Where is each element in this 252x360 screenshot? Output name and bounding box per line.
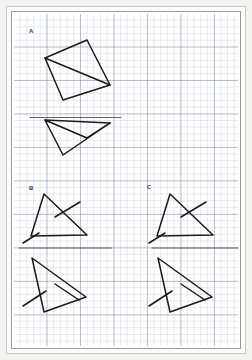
exercise-group-b [19, 194, 112, 312]
exercise-label-a: A [29, 28, 33, 34]
exercise-label-b: B [29, 185, 33, 191]
figure-a-reflection [45, 120, 110, 155]
segment-c-reflection-0 [181, 284, 205, 300]
exercise-group-a [30, 40, 121, 155]
polygon-a-reflection [45, 120, 110, 155]
exercise-group-c [149, 194, 238, 312]
segment-b-original-0 [55, 202, 80, 217]
worksheet-page: A B C [0, 0, 252, 360]
figure-c-reflection [149, 258, 212, 312]
polygon-a-original [45, 40, 110, 100]
figure-a-original [45, 40, 110, 100]
figure-b-original [23, 194, 87, 243]
segment-b-reflection-0 [55, 284, 79, 300]
figure-b-reflection [23, 258, 86, 312]
figure-c-original [149, 194, 213, 243]
exercise-label-c: C [147, 184, 151, 190]
polygon-c-reflection [158, 258, 212, 312]
polygon-b-reflection [32, 258, 86, 312]
segment-c-original-0 [181, 202, 206, 217]
reflection-diagrams [0, 0, 252, 360]
segment-a-reflection-0 [45, 120, 110, 123]
